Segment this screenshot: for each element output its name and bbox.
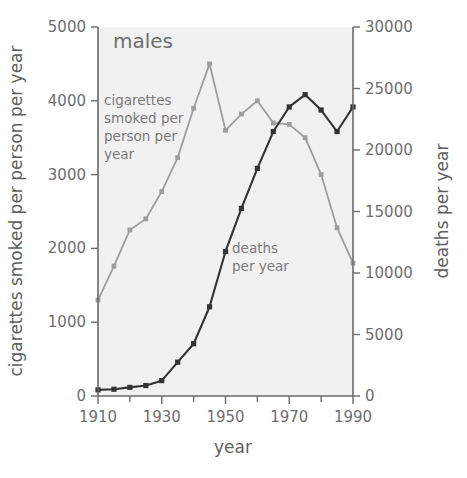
- data-point-cigarettes: [335, 225, 340, 230]
- annotation-line: deaths: [232, 240, 278, 256]
- panel-title: males: [113, 29, 173, 53]
- x-ticklabel: 1970: [270, 408, 308, 426]
- bottom-axis-ticklabels: 19101930195019701990: [79, 408, 372, 426]
- data-point-cigarettes: [175, 155, 180, 160]
- x-ticklabel: 1950: [206, 408, 244, 426]
- left-ticklabel: 3000: [48, 166, 86, 184]
- x-ticklabel: 1990: [334, 408, 372, 426]
- bottom-axis-ticks: [98, 396, 353, 404]
- right-ticklabel: 5000: [365, 326, 403, 344]
- right-axis-title: deaths per year: [432, 144, 452, 279]
- right-axis-ticklabels: 050001000015000200002500030000: [365, 18, 413, 405]
- data-point-cigarettes: [112, 264, 117, 269]
- data-point-cigarettes: [255, 98, 260, 103]
- data-point-deaths: [191, 341, 196, 346]
- left-ticklabel: 2000: [48, 239, 86, 257]
- left-axis-ticklabels: 010002000300040005000: [48, 18, 86, 405]
- left-axis-ticks: [91, 27, 98, 396]
- data-point-cigarettes: [207, 62, 212, 67]
- data-point-cigarettes: [191, 106, 196, 111]
- data-point-deaths: [175, 360, 180, 365]
- x-ticklabel: 1930: [143, 408, 181, 426]
- data-point-cigarettes: [271, 121, 276, 126]
- left-ticklabel: 4000: [48, 92, 86, 110]
- plot-background: [98, 27, 353, 396]
- data-point-deaths: [271, 129, 276, 134]
- data-point-cigarettes: [143, 216, 148, 221]
- annotation-line: smoked per: [104, 110, 184, 126]
- data-point-cigarettes: [159, 189, 164, 194]
- data-point-deaths: [334, 129, 339, 134]
- data-point-deaths: [127, 385, 132, 390]
- annotation-line: person per: [104, 128, 177, 144]
- right-ticklabel: 0: [365, 387, 375, 405]
- data-point-deaths: [303, 92, 308, 97]
- chart-figure: 010002000300040005000 050001000015000200…: [0, 0, 467, 478]
- left-axis-title: cigarettes smoked per person per year: [6, 45, 26, 376]
- annotation-line: cigarettes: [104, 92, 172, 108]
- data-point-deaths: [207, 304, 212, 309]
- data-point-cigarettes: [303, 135, 308, 140]
- right-ticklabel: 30000: [365, 18, 413, 36]
- data-point-cigarettes: [239, 112, 244, 117]
- right-ticklabel: 20000: [365, 141, 413, 159]
- data-point-deaths: [143, 383, 148, 388]
- data-point-deaths: [255, 166, 260, 171]
- right-ticklabel: 25000: [365, 80, 413, 98]
- left-ticklabel: 5000: [48, 18, 86, 36]
- right-ticklabel: 15000: [365, 203, 413, 221]
- x-ticklabel: 1910: [79, 408, 117, 426]
- data-point-cigarettes: [127, 228, 132, 233]
- data-point-deaths: [223, 249, 228, 254]
- data-point-cigarettes: [287, 122, 292, 127]
- cigarettes-vs-deaths-chart: 010002000300040005000 050001000015000200…: [0, 0, 467, 478]
- data-point-cigarettes: [319, 172, 324, 177]
- data-point-deaths: [239, 206, 244, 211]
- right-ticklabel: 10000: [365, 264, 413, 282]
- data-point-deaths: [319, 107, 324, 112]
- annotation-line: per year: [232, 258, 289, 274]
- data-point-deaths: [159, 378, 164, 383]
- data-point-deaths: [287, 104, 292, 109]
- right-axis-ticks: [353, 27, 360, 396]
- data-point-cigarettes: [223, 128, 228, 133]
- x-axis-title: year: [214, 437, 252, 457]
- left-ticklabel: 0: [76, 387, 86, 405]
- data-point-deaths: [111, 387, 116, 392]
- left-ticklabel: 1000: [48, 313, 86, 331]
- annotation-line: year: [104, 146, 135, 162]
